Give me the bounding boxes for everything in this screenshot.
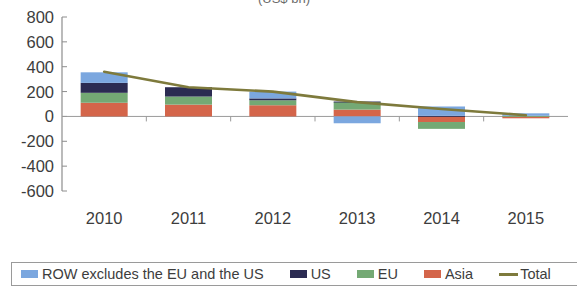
- legend-item-label: Total: [520, 267, 551, 282]
- bar-segment: [81, 83, 128, 93]
- bar-segment: [418, 116, 465, 117]
- y-axis-tick-label: 200: [26, 83, 54, 101]
- bar-segment: [418, 122, 465, 129]
- x-axis-tick-label: 2013: [339, 209, 376, 227]
- x-axis-tick-label: 2012: [254, 209, 291, 227]
- legend-item[interactable]: Total: [499, 267, 551, 282]
- bar-segment: [334, 116, 381, 123]
- bar-segment: [249, 100, 296, 105]
- legend-color-swatch: [290, 270, 307, 278]
- bar-segment: [334, 110, 381, 117]
- y-axis-tick-label: 0: [45, 107, 54, 125]
- legend-color-swatch: [21, 270, 38, 278]
- bar-segment: [165, 105, 212, 117]
- legend-item[interactable]: Asia: [424, 267, 473, 282]
- y-axis-tick-label: 400: [26, 58, 54, 76]
- chart-plot-area: 8006004002000-200-400-600201020112012201…: [0, 0, 568, 252]
- y-axis-tick-label: -400: [21, 157, 54, 175]
- x-axis-tick-label: 2010: [86, 209, 123, 227]
- legend-color-swatch: [424, 270, 441, 278]
- y-axis-tick-label: -200: [21, 132, 54, 150]
- legend-item-label: ROW excludes the EU and the US: [42, 267, 264, 282]
- legend-line-swatch: [499, 273, 518, 276]
- bar-segment: [81, 103, 128, 117]
- bar-segment: [418, 116, 465, 122]
- y-axis-tick-label: 600: [26, 33, 54, 51]
- legend-item-label: Asia: [445, 267, 473, 282]
- bar-segment: [249, 98, 296, 100]
- y-axis-tick-label: 800: [26, 8, 54, 26]
- legend-item[interactable]: EU: [357, 267, 398, 282]
- x-axis-tick-label: 2014: [423, 209, 460, 227]
- x-axis-tick-label: 2011: [171, 209, 206, 227]
- y-axis-tick-label: -600: [21, 182, 54, 200]
- stacked-bar-chart: 8006004002000-200-400-600201020112012201…: [0, 0, 568, 252]
- x-axis-tick-label: 2015: [507, 209, 544, 227]
- legend-color-swatch: [357, 270, 374, 278]
- legend-item[interactable]: ROW excludes the EU and the US: [21, 267, 264, 282]
- bar-segment: [249, 105, 296, 116]
- bar-segment: [81, 93, 128, 103]
- chart-legend: ROW excludes the EU and the USUSEUAsiaTo…: [11, 262, 577, 286]
- legend-item-label: EU: [378, 267, 398, 282]
- legend-item-label: US: [311, 267, 331, 282]
- bar-segment: [165, 97, 212, 105]
- legend-item[interactable]: US: [290, 267, 331, 282]
